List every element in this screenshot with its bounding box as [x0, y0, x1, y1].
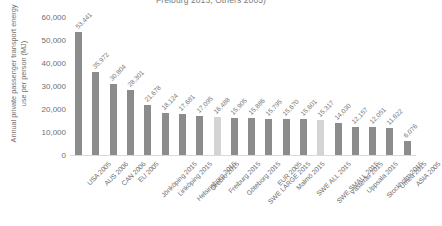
bar-series: 53,44135,97230,80428,30121,67818,12417,6… — [70, 17, 416, 155]
bar — [352, 127, 359, 155]
bar — [369, 127, 376, 155]
x-label-slot: USA 2005 — [70, 157, 87, 226]
bar — [386, 128, 393, 155]
x-label-slot: Malmö 2015 — [278, 157, 295, 226]
bar-slot: 28,301 — [122, 17, 139, 155]
y-axis-tick-label: 60,000 — [24, 13, 66, 22]
x-axis-labels: USA 2005AUS 2006CAN 2006EU 2005Jönköping… — [70, 157, 416, 226]
x-label-slot: Linköping 2015 — [156, 157, 173, 226]
x-label-slot: Örebro 2015 — [191, 157, 208, 226]
x-label-slot: AUS 2006 — [87, 157, 104, 226]
bar — [196, 116, 203, 155]
bar-slot: 14,030 — [329, 17, 346, 155]
x-label-slot: Umeå 2015 — [381, 157, 398, 226]
bar-slot: 15,905 — [226, 17, 243, 155]
x-label-slot: SWE SMALL 2015 — [312, 157, 329, 226]
y-axis-tick-label: 20,000 — [24, 105, 66, 114]
x-label-slot: Göteborg 2015 — [226, 157, 243, 226]
bar-slot: 6,076 — [399, 17, 416, 155]
x-label-slot: CAN 2006 — [105, 157, 122, 226]
bar — [214, 117, 221, 155]
bar — [127, 90, 134, 155]
x-axis-line — [70, 155, 416, 156]
plot-area: 53,44135,97230,80428,30121,67818,12417,6… — [70, 17, 416, 155]
bar-slot: 15,670 — [278, 17, 295, 155]
bar — [231, 118, 238, 155]
bar — [317, 120, 324, 155]
x-label-slot: Helsingborg 2015 — [174, 157, 191, 226]
bar-slot: 16,488 — [208, 17, 225, 155]
y-axis-tick-label: 10,000 — [24, 128, 66, 137]
bar — [110, 84, 117, 155]
x-label-slot: Jönköping 2015 — [139, 157, 156, 226]
bar — [335, 123, 342, 155]
y-axis-tick-label: 40,000 — [24, 59, 66, 68]
bar — [283, 119, 290, 155]
x-label-slot: SWE LARGE 2015 — [243, 157, 260, 226]
bar — [75, 32, 82, 155]
y-axis-tick-label: 0 — [24, 151, 66, 160]
bar — [265, 119, 272, 155]
x-label-slot: Freiburg 2015 — [208, 157, 225, 226]
bar-slot: 15,886 — [243, 17, 260, 155]
y-axis-ticks: 60,00050,00040,00030,00020,00010,0000 — [20, 17, 66, 155]
bar-slot: 15,601 — [295, 17, 312, 155]
bar-slot: 12,157 — [347, 17, 364, 155]
bar — [179, 114, 186, 155]
x-label-slot: SWE ALL 2015 — [295, 157, 312, 226]
bar-slot: 18,124 — [156, 17, 173, 155]
bar-value-label: 6,076 — [402, 123, 418, 139]
bar-slot: 21,678 — [139, 17, 156, 155]
bar — [248, 118, 255, 155]
y-axis-tick-label: 50,000 — [24, 36, 66, 45]
bar-slot: 12,051 — [364, 17, 381, 155]
bar — [162, 113, 169, 155]
bar-slot: 11,622 — [381, 17, 398, 155]
chart-title: Freiburg 2013, Others 2005) — [0, 0, 422, 5]
y-axis-tick-label: 30,000 — [24, 82, 66, 91]
bar-slot: 17,095 — [191, 17, 208, 155]
x-label-slot: ASIA 2005 — [399, 157, 416, 226]
bar-slot: 30,804 — [105, 17, 122, 155]
x-label-slot: EUR 2005 — [260, 157, 277, 226]
bar-slot: 53,441 — [70, 17, 87, 155]
bar-slot: 35,972 — [87, 17, 104, 155]
x-label-slot: Uppsala 2015 — [347, 157, 364, 226]
bar-slot: 17,681 — [174, 17, 191, 155]
bar — [300, 119, 307, 155]
bar — [144, 105, 151, 155]
x-label-slot: Västerås 2015 — [329, 157, 346, 226]
bar — [92, 72, 99, 155]
bar-slot: 15,317 — [312, 17, 329, 155]
x-label-slot: EU 2005 — [122, 157, 139, 226]
bar — [404, 141, 411, 155]
x-label-slot: Stockholm 2015 — [364, 157, 381, 226]
bar-slot: 15,795 — [260, 17, 277, 155]
